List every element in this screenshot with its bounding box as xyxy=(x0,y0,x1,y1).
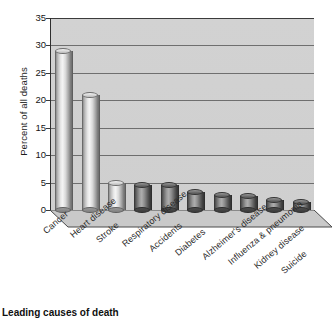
gridline xyxy=(51,18,314,19)
figure-caption: Leading causes of death xyxy=(2,307,119,318)
gridline xyxy=(51,45,314,46)
bar-base-ellipse xyxy=(214,207,230,213)
bar xyxy=(214,195,230,210)
y-tick-label: 5 xyxy=(18,178,46,188)
y-tick-label: 20 xyxy=(18,95,46,105)
bar xyxy=(187,192,203,210)
y-tick-mark xyxy=(46,73,50,74)
bar xyxy=(82,95,98,210)
bar-top-ellipse xyxy=(55,48,71,54)
bar-top-ellipse xyxy=(82,92,98,98)
y-tick-label: 0 xyxy=(18,205,46,215)
y-tick-label: 30 xyxy=(18,40,46,50)
y-tick-mark xyxy=(46,18,50,19)
bar-top-ellipse xyxy=(108,180,124,186)
bar xyxy=(55,51,71,210)
bar xyxy=(134,185,150,210)
y-tick-label: 15 xyxy=(18,123,46,133)
y-tick-mark xyxy=(46,183,50,184)
y-tick-label: 35 xyxy=(18,13,46,23)
bar-top-ellipse xyxy=(214,192,230,198)
y-axis-tick-labels: 05101520253035 xyxy=(14,0,46,316)
y-tick-mark xyxy=(46,100,50,101)
bar-body xyxy=(55,51,73,210)
y-tick-label: 10 xyxy=(18,150,46,160)
y-tick-mark xyxy=(46,45,50,46)
y-tick-label: 25 xyxy=(18,68,46,78)
y-tick-mark xyxy=(46,210,50,211)
y-tick-mark xyxy=(46,128,50,129)
bar-body xyxy=(82,95,100,210)
x-category-label: Suicide xyxy=(279,248,309,275)
y-tick-mark xyxy=(46,155,50,156)
gridline xyxy=(51,73,314,74)
